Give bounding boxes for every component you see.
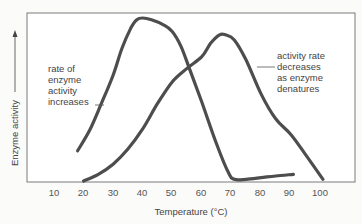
x-axis-title: Temperature (°C)	[155, 206, 228, 217]
x-tick-label: 100	[312, 187, 328, 198]
x-tick-label: 60	[196, 187, 207, 198]
x-tick-label: 40	[137, 187, 148, 198]
annotation-right-line-4: denatures	[277, 83, 320, 94]
x-tick-label: 50	[166, 187, 177, 198]
y-axis-title: Enzyme activity	[9, 100, 20, 166]
annotation-left-line-2: enzyme	[48, 74, 81, 85]
x-axis-ticks: 10 20 30 40 50 60 70 80 90 100	[49, 187, 328, 198]
x-tick-label: 30	[108, 187, 119, 198]
annotation-right-line-2: decreases	[277, 61, 321, 72]
annotation-left-line-1: rate of	[48, 63, 75, 74]
x-tick-label: 90	[284, 187, 295, 198]
x-tick-label: 80	[255, 187, 266, 198]
annotation-left-line-4: increases	[48, 96, 89, 107]
enzyme-activity-chart: rate of enzyme activity increases activi…	[0, 0, 362, 224]
x-tick-label: 10	[49, 187, 60, 198]
y-axis-arrow-icon	[13, 30, 18, 37]
y-axis-title-group: Enzyme activity	[9, 30, 20, 166]
annotation-right-line-1: activity rate	[277, 50, 325, 61]
x-tick-label: 20	[78, 187, 89, 198]
x-tick-label: 70	[225, 187, 236, 198]
annotation-right: activity rate decreases as enzyme denatu…	[277, 50, 325, 94]
annotation-left-line-3: activity	[48, 85, 77, 96]
annotation-right-line-3: as enzyme	[277, 72, 323, 83]
